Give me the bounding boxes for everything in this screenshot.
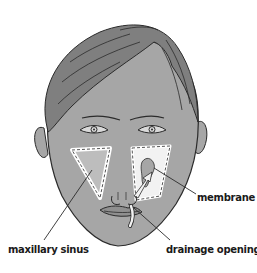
label-membrane: membrane: [197, 192, 255, 203]
label-drainage-opening: drainage opening: [166, 244, 257, 255]
label-maxillary-sinus: maxillary sinus: [8, 244, 89, 255]
face-illustration: [0, 0, 257, 273]
left-ear: [35, 127, 48, 157]
diagram-canvas: membrane maxillary sinus drainage openin…: [0, 0, 257, 273]
